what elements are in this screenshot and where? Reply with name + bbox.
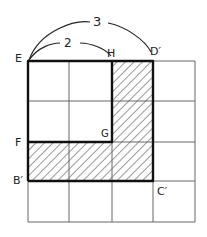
diagram-canvas [0, 0, 207, 237]
point-label-G: G [101, 129, 109, 139]
point-label-B-prime: B′ [13, 175, 23, 186]
arc-label-3: 3 [93, 15, 101, 28]
arc-label-2: 2 [64, 37, 72, 49]
point-label-E: E [15, 53, 22, 64]
dimension-arcs [29, 22, 151, 60]
point-label-D-prime: D′ [150, 46, 161, 57]
point-label-F: F [15, 137, 21, 148]
point-label-H: H [107, 48, 115, 59]
shaded-region [28, 61, 153, 181]
point-label-C-prime: C′ [157, 186, 167, 197]
